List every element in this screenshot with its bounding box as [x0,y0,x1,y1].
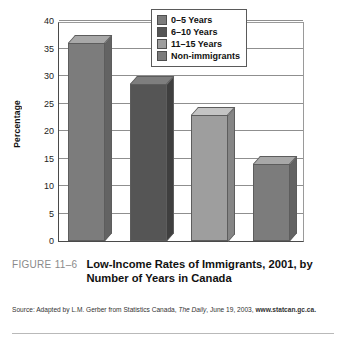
legend-label: 0–5 Years [171,16,212,25]
legend-swatch-icon [157,39,167,49]
y-tick-label-5: 5 [49,209,54,219]
bar-top-face [191,107,235,115]
source-url[interactable]: www.statcan.gc.ca. [255,306,316,313]
y-tick-label-25: 25 [44,99,54,109]
legend-item-2: 6–10 Years [157,26,240,38]
figure-container: Percentage 0510152025303540 0–5 Years6–1… [0,0,342,347]
bar-2 [130,84,167,241]
y-tick-label-15: 15 [44,154,54,164]
legend-swatch-icon [157,15,167,25]
bar-side-face [228,106,235,241]
y-tick-label-30: 30 [44,71,54,81]
bar-top-face [68,35,112,43]
legend-swatch-icon [157,51,167,61]
bar-top-face [130,76,174,84]
legend-item-1: 0–5 Years [157,14,240,26]
legend-label: 11–15 Years [171,40,222,49]
source-publication: The Daily [178,306,206,313]
figure-caption: FIGURE 11–6 Low-Income Rates of Immigran… [12,258,334,285]
source-note: Source: Adapted by L.M. Gerber from Stat… [12,305,334,315]
source-middle: , June 19, 2003, [206,306,255,313]
y-tick-label-10: 10 [44,181,54,191]
y-tick-label-0: 0 [49,236,54,246]
bottom-divider [12,333,334,334]
y-tick-label-35: 35 [44,44,54,54]
bar-1 [68,43,105,241]
bar-side-face [167,76,174,241]
bar-front-face [253,164,290,241]
y-axis-title: Percentage [12,100,26,148]
figure-number: FIGURE 11–6 [12,258,77,270]
chart-block: Percentage 0510152025303540 0–5 Years6–1… [0,0,342,256]
figure-title: Low-Income Rates of Immigrants, 2001, by… [86,258,334,285]
chart-legend: 0–5 Years6–10 Years11–15 YearsNon-immigr… [151,9,247,67]
legend-label: 6–10 Years [171,28,217,37]
source-prefix: Source: Adapted by L.M. Gerber from Stat… [12,306,178,313]
bar-side-face [290,156,297,241]
y-tick-label-40: 40 [44,16,54,26]
bar-4 [253,164,290,241]
legend-item-4: Non-immigrants [157,50,240,62]
bar-front-face [191,115,228,242]
bar-front-face [68,43,105,241]
y-tick-label-20: 20 [44,126,54,136]
legend-item-3: 11–15 Years [157,38,240,50]
bar-3 [191,115,228,242]
legend-swatch-icon [157,27,167,37]
legend-label: Non-immigrants [171,52,240,61]
bar-top-face [253,156,297,164]
bar-front-face [130,84,167,241]
bar-side-face [105,35,112,241]
